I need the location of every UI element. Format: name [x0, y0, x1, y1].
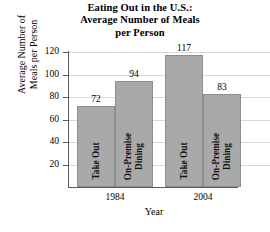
bar-series-label-line: On-Premise: [123, 133, 134, 180]
bar-series-label-line: On-Premise: [211, 133, 222, 180]
bar-series-label: On-PremiseDining: [211, 133, 232, 180]
y-axis-tick-label: 100: [31, 70, 63, 80]
y-axis-tick-label: 20: [31, 160, 63, 170]
y-axis-title-line-1: Average Number of: [16, 0, 28, 134]
bar-series-label: Take Out: [91, 143, 102, 180]
y-axis-tick-label: 40: [31, 137, 63, 147]
x-axis-category-label: 1984: [90, 192, 140, 202]
bar-series-label: Take Out: [179, 143, 190, 180]
bar: 94On-PremiseDining: [115, 81, 153, 187]
chart-title: Eating Out in the U.S.: Average Number o…: [55, 2, 225, 39]
bar-series-label-line: Dining: [134, 133, 145, 180]
x-axis-category-label: 2004: [178, 192, 228, 202]
bar: 117Take Out: [165, 55, 203, 187]
bar-value-label: 117: [166, 44, 202, 54]
chart-title-line-1: Eating Out in the U.S.:: [55, 2, 225, 14]
chart-title-line-2: Average Number of Meals: [55, 14, 225, 26]
chart-title-line-3: per Person: [55, 27, 225, 39]
x-axis-line: [68, 187, 238, 188]
bar-value-label: 83: [204, 83, 240, 93]
y-axis-tick-label: 80: [31, 92, 63, 102]
bar: 72Take Out: [77, 106, 115, 187]
bar-series-label-line: Dining: [222, 133, 233, 180]
bar-value-label: 72: [78, 95, 114, 105]
y-axis-tick-label: 120: [31, 47, 63, 57]
bar-chart: Eating Out in the U.S.: Average Number o…: [0, 0, 270, 232]
bar-value-label: 94: [116, 70, 152, 80]
bar-series-label-line: Take Out: [179, 143, 190, 180]
y-axis-tick-label: 60: [31, 115, 63, 125]
x-axis-title: Year: [69, 207, 239, 217]
bar-series-label: On-PremiseDining: [123, 133, 144, 180]
bar-series-label-line: Take Out: [91, 143, 102, 180]
plot-area: 72Take Out94On-PremiseDining117Take Out8…: [69, 52, 270, 187]
bar: 83On-PremiseDining: [203, 94, 241, 187]
